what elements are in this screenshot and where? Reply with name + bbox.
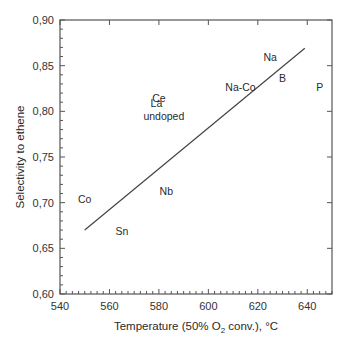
point-label-co: Co [78,193,92,205]
x-tick-label: 640 [298,300,316,312]
point-label-p: P [316,81,323,93]
regression-line [85,48,305,230]
point-label-nb: Nb [160,185,174,197]
y-axis-title: Selectivity to ethene [14,106,26,209]
point-label-sn: Sn [115,225,128,237]
scatter-chart: 5405605806006206400,600,650,700,750,800,… [0,0,345,351]
y-tick-label: 0,65 [33,242,54,254]
y-tick-label: 0,85 [33,60,54,72]
x-axis-title: Temperature (50% O2 conv.), °C [114,320,278,335]
x-tick-label: 620 [249,300,267,312]
x-tick-label: 600 [199,300,217,312]
y-tick-label: 0,80 [33,105,54,117]
data-labels: NaBPNa-CoCeLaundopedNbCoSn [78,51,323,237]
point-label-na: Na [263,51,277,63]
x-tick-label: 580 [150,300,168,312]
point-label-b: B [279,72,286,84]
plot-frame [60,20,332,294]
x-tick-label: 560 [100,300,118,312]
point-label-la: La [151,97,163,109]
y-tick-label: 0,70 [33,197,54,209]
x-tick-label: 540 [51,300,69,312]
point-label-undoped: undoped [143,110,184,122]
y-tick-label: 0,90 [33,14,54,26]
y-tick-label: 0,75 [33,151,54,163]
point-label-na-co: Na-Co [225,81,256,93]
trendline [85,48,305,230]
y-tick-label: 0,60 [33,288,54,300]
plot-area: 5405605806006206400,600,650,700,750,800,… [33,14,332,312]
